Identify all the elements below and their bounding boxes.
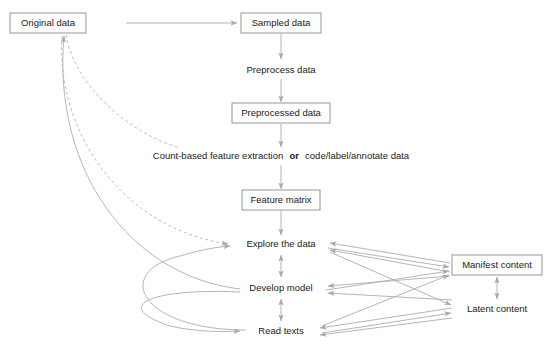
edge-original-to-explore-dashed	[62, 36, 228, 244]
edge-explore-to-manifest	[328, 248, 449, 267]
feature-extraction-or: or	[289, 150, 299, 161]
edge-manifest-to-read-texts	[320, 308, 452, 328]
edge-latent-to-read-texts	[320, 318, 452, 335]
edge-develop-to-manifest	[326, 271, 449, 290]
node-label-read-texts[interactable]: Read texts	[258, 325, 304, 336]
node-label-explore-the-data[interactable]: Explore the data	[246, 238, 316, 249]
node-label-feature-extraction[interactable]: Count-based feature extraction or code/l…	[153, 150, 410, 161]
node-label-develop-model[interactable]: Develop model	[249, 282, 312, 293]
node-label-preprocessed-data[interactable]: Preprocessed data	[241, 107, 321, 118]
feature-extraction-head: Count-based feature extraction	[153, 150, 283, 161]
node-label-sampled-data[interactable]: Sampled data	[252, 17, 311, 28]
flowchart-canvas: Original data Sampled data Preprocess da…	[0, 0, 549, 348]
edge-develop-to-read-texts-curve	[141, 291, 240, 331]
node-label-manifest-content[interactable]: Manifest content	[462, 259, 532, 270]
edge-original-to-extraction-dashed	[66, 35, 196, 152]
node-label-latent-content[interactable]: Latent content	[467, 303, 528, 314]
node-label-preprocess-data[interactable]: Preprocess data	[246, 64, 316, 75]
node-label-feature-matrix[interactable]: Feature matrix	[250, 194, 311, 205]
workflow-diagram: Original data Sampled data Preprocess da…	[0, 0, 549, 348]
node-label-original-data[interactable]: Original data	[21, 17, 76, 28]
feature-extraction-tail: code/label/annotate data	[305, 150, 410, 161]
edge-read-texts-to-latent	[322, 313, 451, 333]
